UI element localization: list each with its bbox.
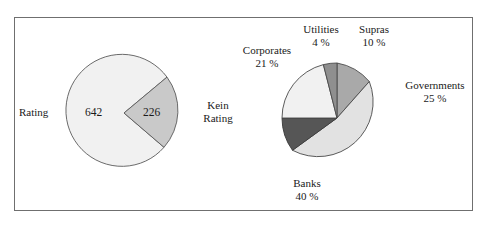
right-pie-label-governments-name: Governments — [396, 79, 474, 92]
pie-charts-canvas — [0, 0, 493, 227]
right-pie-label-banks: Banks 40 % — [284, 177, 330, 202]
left-pie-chart — [66, 54, 178, 166]
left-pie-label-kein-rating: Kein Rating — [190, 99, 246, 124]
right-pie-label-supras-value: 10 % — [348, 36, 400, 49]
right-pie-label-supras: Supras 10 % — [348, 23, 400, 48]
right-pie-label-utilities-value: 4 % — [293, 36, 349, 49]
left-pie-label-kein-line2: Rating — [190, 112, 246, 125]
right-pie-label-banks-name: Banks — [284, 177, 330, 190]
right-pie-label-banks-value: 40 % — [284, 190, 330, 203]
right-pie-label-corporates-name: Corporates — [234, 44, 300, 57]
right-pie-label-utilities: Utilities 4 % — [293, 23, 349, 48]
left-pie-label-kein-line1: Kein — [190, 99, 246, 112]
left-pie-label-rating: Rating — [19, 106, 65, 119]
right-pie-label-governments-value: 25 % — [396, 92, 474, 105]
figure-root: Rating 642 226 Kein Rating Utilities 4 %… — [0, 0, 493, 227]
right-pie-chart — [282, 63, 373, 157]
left-pie-value-226: 226 — [143, 106, 160, 118]
left-pie-value-642: 642 — [85, 106, 102, 118]
right-pie-label-corporates-value: 21 % — [234, 57, 300, 70]
right-pie-label-supras-name: Supras — [348, 23, 400, 36]
right-pie-label-corporates: Corporates 21 % — [234, 44, 300, 69]
right-pie-label-governments: Governments 25 % — [396, 79, 474, 104]
right-pie-label-utilities-name: Utilities — [293, 23, 349, 36]
